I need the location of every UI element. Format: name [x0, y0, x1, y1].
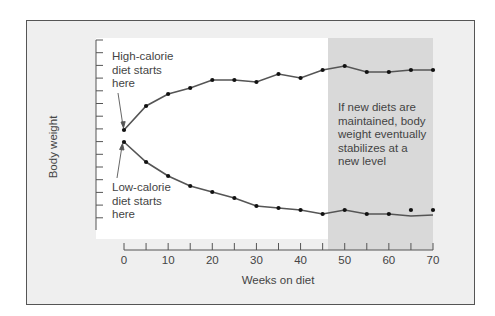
data-point: [298, 76, 302, 80]
y-axis-label: Body weight: [47, 116, 59, 179]
data-point: [365, 212, 369, 216]
data-point: [409, 208, 413, 212]
high-calorie-annotation: High-calorie diet starts here: [112, 50, 173, 91]
data-point: [431, 68, 435, 72]
x-tick-label: 70: [427, 254, 440, 266]
data-point: [254, 204, 258, 208]
y-axis: [96, 40, 103, 230]
data-point: [232, 196, 236, 200]
stabilization-annotation: If new diets are maintained, body weight…: [338, 101, 426, 169]
x-tick-label: 30: [250, 254, 263, 266]
data-point: [276, 72, 280, 76]
x-tick-label: 10: [162, 254, 175, 266]
data-point: [122, 140, 126, 144]
data-point: [166, 92, 170, 96]
x-tick-label: 40: [294, 254, 307, 266]
data-point: [387, 70, 391, 74]
data-point: [431, 208, 435, 212]
data-point: [343, 64, 347, 68]
data-point: [210, 190, 214, 194]
data-point: [343, 208, 347, 212]
x-axis: [124, 243, 433, 250]
data-point: [122, 128, 126, 132]
x-tick-label: 20: [206, 254, 219, 266]
data-point: [276, 206, 280, 210]
data-point: [210, 78, 214, 82]
annotation-arrows: [117, 93, 125, 178]
data-point: [232, 78, 236, 82]
data-point: [188, 86, 192, 90]
data-point: [387, 212, 391, 216]
data-point: [144, 160, 148, 164]
x-tick-label: 0: [121, 254, 127, 266]
data-point: [409, 68, 413, 72]
x-tick-label: 50: [338, 254, 351, 266]
data-point: [321, 212, 325, 216]
data-point: [188, 184, 192, 188]
data-point: [144, 104, 148, 108]
low-calorie-annotation: Low-calorie diet starts here: [112, 181, 171, 222]
data-point: [254, 80, 258, 84]
data-point: [166, 174, 170, 178]
x-tick-label: 60: [382, 254, 395, 266]
data-point: [321, 68, 325, 72]
data-point: [365, 70, 369, 74]
x-axis-label: Weeks on diet: [242, 274, 315, 286]
data-point: [298, 208, 302, 212]
